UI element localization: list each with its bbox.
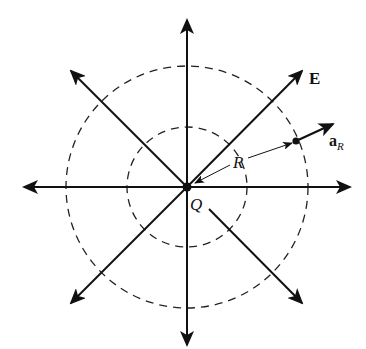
charge-label-Q: Q — [190, 195, 202, 214]
unit-vector-label: aR — [329, 132, 344, 152]
distance-label-R: R — [232, 153, 244, 172]
unit-vector-subscript: R — [336, 140, 344, 152]
field-point-dot — [292, 137, 299, 144]
distance-arrow-to-point — [248, 143, 292, 158]
charge-dot — [183, 183, 192, 192]
unit-vector-arrow — [296, 124, 333, 141]
unit-vector-main: a — [329, 132, 337, 149]
field-line-down-right — [209, 209, 302, 303]
point-charge-field-diagram: E aR R Q — [0, 0, 366, 349]
field-line-up-left — [71, 71, 187, 187]
field-label-E: E — [309, 69, 320, 88]
